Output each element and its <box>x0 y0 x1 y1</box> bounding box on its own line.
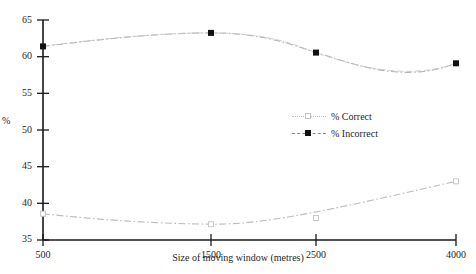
y-tick-label-60: 60 <box>10 51 32 61</box>
y-tick-label-40: 40 <box>10 198 32 208</box>
data-point <box>454 179 459 184</box>
data-point <box>453 60 459 66</box>
legend-key-correct <box>292 111 326 122</box>
data-point <box>40 43 46 49</box>
data-point <box>209 222 214 227</box>
series-line-correct-overlay <box>43 33 456 71</box>
data-point <box>208 30 214 36</box>
legend-entry-correct: % Correct <box>292 108 422 125</box>
y-tick-label-35: 35 <box>10 234 32 244</box>
chart-legend: % Correct % Incorrect <box>292 108 422 142</box>
y-tick-label-65: 65 <box>10 15 32 25</box>
legend-label-correct: % Correct <box>326 111 372 122</box>
legend-key-incorrect <box>292 128 326 139</box>
series-line-correct <box>43 33 456 72</box>
x-axis-title: Size of moving window (metres) <box>0 252 476 263</box>
chart-figure: 65 60 55 50 45 40 35 % 500 1500 2500 400… <box>0 0 476 274</box>
data-point <box>41 211 46 216</box>
data-point <box>313 50 319 56</box>
legend-entry-incorrect: % Incorrect <box>292 125 422 142</box>
square-open-icon <box>305 113 311 119</box>
y-tick-label-45: 45 <box>10 161 32 171</box>
y-tick-label-50: 50 <box>10 125 32 135</box>
y-axis-title: % <box>2 115 10 126</box>
series-line-incorrect <box>43 181 456 224</box>
data-point <box>314 216 319 221</box>
square-filled-icon <box>305 130 311 136</box>
y-tick-label-55: 55 <box>10 88 32 98</box>
legend-label-incorrect: % Incorrect <box>326 128 378 139</box>
